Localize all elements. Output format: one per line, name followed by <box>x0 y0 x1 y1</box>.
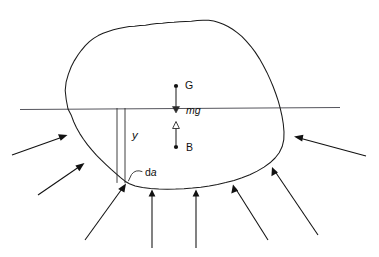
pressure-arrow-left-upper <box>12 134 68 155</box>
pressure-arrow-bottom-right <box>231 185 268 241</box>
center-of-gravity-dot <box>174 84 178 88</box>
pressure-arrow-right-upper <box>294 135 366 156</box>
area-element-leader-line <box>129 171 143 181</box>
area-element-label: da <box>145 167 157 178</box>
pressure-arrow-right-lower <box>271 167 318 235</box>
buoyancy-diagram: G mg B y da <box>0 0 379 257</box>
center-of-gravity-label: G <box>185 80 193 91</box>
center-of-buoyancy-dot <box>174 145 178 149</box>
weight-force-label: mg <box>186 105 201 116</box>
pressure-arrow-left-lower <box>38 163 85 195</box>
pressure-arrow-bottom-left <box>85 184 126 241</box>
buoyancy-force-arrowhead <box>173 122 180 129</box>
weight-force-arrowhead <box>172 107 179 114</box>
floating-body-outline <box>65 20 284 189</box>
depth-label: y <box>132 130 138 142</box>
pressure-arrow-bottom-center-left <box>149 190 156 249</box>
pressure-arrow-bottom-center-right <box>193 190 200 249</box>
area-element-label-a: a <box>151 166 157 178</box>
diagram-canvas <box>0 0 379 257</box>
center-of-buoyancy-label: B <box>186 142 193 153</box>
